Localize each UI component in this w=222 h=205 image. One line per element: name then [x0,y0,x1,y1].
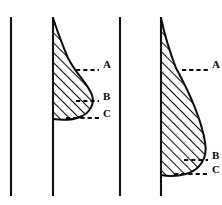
two-panel-hatched-profile-diagram: A B C A B C [0,0,222,205]
right-diagram: A B C [120,10,220,196]
level-label-right-b: B [212,149,220,161]
level-label-right-c: C [212,163,220,175]
level-label-right-a: A [212,58,220,70]
figure-canvas: A B C A B C [0,0,222,205]
left-diagram: A B C [11,10,111,196]
level-label-left-a: A [103,58,111,70]
level-label-left-c: C [103,107,111,119]
level-label-left-b: B [103,90,111,102]
